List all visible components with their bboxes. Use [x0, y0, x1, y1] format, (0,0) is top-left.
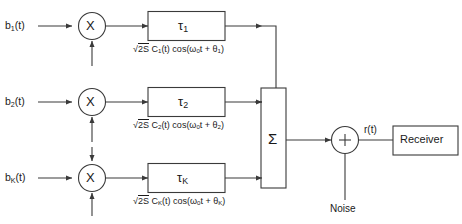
- branch-k-delay-label: τK: [177, 171, 188, 186]
- branch-2-delay-subscript: 2: [183, 100, 188, 110]
- noise-label: Noise: [330, 204, 356, 214]
- branch-2-multiplier-symbol: X: [86, 95, 95, 108]
- branch-2-delay-label: τ2: [178, 95, 188, 110]
- receiver-label: Receiver: [400, 134, 443, 145]
- branch-1-carrier-label: √2S C1(t) cos(ω0t + θ1): [133, 45, 224, 54]
- branch-2-input-label: b2(t): [5, 96, 25, 109]
- branch-k-carrier-label: √2S CK(t) cos(ω0t + θK): [133, 197, 225, 206]
- received-signal-label: r(t): [364, 125, 377, 135]
- diagram-vector-layer: [0, 0, 462, 224]
- branch-1-delay-subscript: 1: [183, 24, 188, 34]
- branch-1-input-label: b1(t): [5, 20, 25, 33]
- branch-2-carrier-label: √2S C2(t) cos(ω0t + θ2): [133, 121, 224, 130]
- branch-1-multiplier-symbol: X: [86, 19, 95, 32]
- summer-symbol: Σ: [268, 131, 277, 146]
- branch-k-input-label: bK(t): [5, 172, 26, 185]
- branch-1-carrier-radicand: 2S: [138, 43, 149, 54]
- branch-2-carrier-radicand: 2S: [138, 119, 149, 130]
- branch-k-multiplier-symbol: X: [86, 171, 95, 184]
- diagram-canvas: b1(t) X τ1 √2S C1(t) cos(ω0t + θ1) b2(t)…: [0, 0, 462, 224]
- branch-k-delay-subscript: K: [182, 176, 188, 186]
- branch-k-carrier-radicand: 2S: [138, 195, 149, 206]
- branch-1-delay-label: τ1: [178, 19, 188, 34]
- branch-1-to-summer-path: [262, 26, 276, 88]
